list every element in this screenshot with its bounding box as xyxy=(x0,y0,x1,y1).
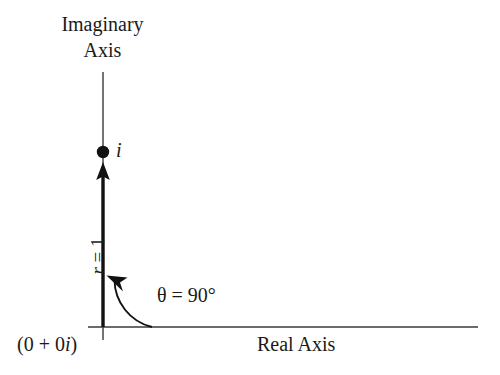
point-label-i: i xyxy=(116,140,122,161)
angle-arc-arrowhead xyxy=(107,276,128,292)
radius-label-symbol: r xyxy=(87,267,108,274)
point-marker-i xyxy=(97,146,109,158)
radius-vector-arrowhead xyxy=(96,162,110,180)
complex-plane-figure: Imaginary Axis i r = 1 θ = 90° (0 + 0i) … xyxy=(0,0,500,375)
imaginary-axis-label-line2: Axis xyxy=(0,40,205,61)
imaginary-axis-label: Imaginary Axis xyxy=(0,14,205,61)
origin-label: (0 + 0i) xyxy=(17,334,77,355)
angle-arc xyxy=(115,280,153,328)
radius-label-value: = 1 xyxy=(87,237,108,267)
origin-label-close: ) xyxy=(71,333,78,355)
real-axis-label: Real Axis xyxy=(257,334,335,355)
angle-label: θ = 90° xyxy=(157,285,216,306)
origin-label-open: (0 + 0 xyxy=(17,333,65,355)
radius-label: r = 1 xyxy=(88,216,108,296)
imaginary-axis-label-line1: Imaginary xyxy=(61,13,143,35)
